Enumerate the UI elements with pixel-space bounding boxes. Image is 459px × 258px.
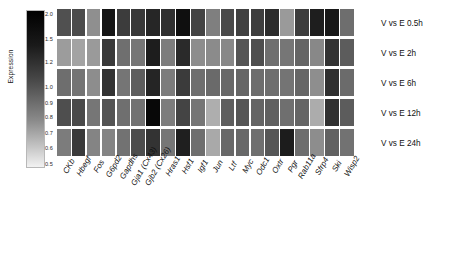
heatmap-cell[interactable] (340, 129, 354, 156)
heatmap-cell[interactable] (57, 129, 71, 156)
heatmap-cell[interactable] (161, 39, 175, 66)
heatmap-cell[interactable] (295, 129, 309, 156)
heatmap-cell[interactable] (251, 69, 265, 96)
heatmap-cell[interactable] (310, 99, 324, 126)
heatmap-cell[interactable] (72, 129, 86, 156)
heatmap-cell[interactable] (265, 69, 279, 96)
colorbar-title: Expression (7, 37, 14, 97)
colorbar-tick: 0.5 (45, 161, 53, 167)
heatmap-cell[interactable] (176, 129, 190, 156)
heatmap-cell[interactable] (221, 129, 235, 156)
heatmap-cell[interactable] (325, 129, 339, 156)
heatmap-cell[interactable] (87, 39, 101, 66)
heatmap-cell[interactable] (87, 69, 101, 96)
heatmap-cell[interactable] (57, 9, 71, 36)
heatmap-cell[interactable] (146, 99, 160, 126)
heatmap-cell[interactable] (131, 69, 145, 96)
heatmap-cell[interactable] (221, 99, 235, 126)
heatmap-cell[interactable] (265, 9, 279, 36)
heatmap-cell[interactable] (251, 39, 265, 66)
heatmap-cell[interactable] (206, 69, 220, 96)
heatmap-cell[interactable] (102, 69, 116, 96)
heatmap-cell[interactable] (131, 39, 145, 66)
heatmap-cell[interactable] (295, 9, 309, 36)
heatmap-cell[interactable] (131, 9, 145, 36)
heatmap-cell[interactable] (191, 39, 205, 66)
heatmap-cell[interactable] (310, 129, 324, 156)
heatmap-cell[interactable] (295, 39, 309, 66)
heatmap-cell[interactable] (146, 39, 160, 66)
heatmap-cell[interactable] (340, 69, 354, 96)
heatmap-cell[interactable] (87, 9, 101, 36)
heatmap-cell[interactable] (102, 99, 116, 126)
heatmap-cell[interactable] (206, 9, 220, 36)
heatmap-cell[interactable] (102, 9, 116, 36)
heatmap-cell[interactable] (265, 39, 279, 66)
heatmap-cell[interactable] (236, 129, 250, 156)
heatmap-cell[interactable] (295, 69, 309, 96)
heatmap-cell[interactable] (310, 69, 324, 96)
heatmap-cell[interactable] (117, 129, 131, 156)
heatmap-cell[interactable] (310, 9, 324, 36)
heatmap-cell[interactable] (146, 9, 160, 36)
heatmap-cell[interactable] (57, 69, 71, 96)
heatmap-cell[interactable] (340, 39, 354, 66)
heatmap-cell[interactable] (176, 99, 190, 126)
heatmap-cell[interactable] (236, 69, 250, 96)
heatmap-cell[interactable] (57, 99, 71, 126)
heatmap-cell[interactable] (161, 99, 175, 126)
heatmap-cell[interactable] (236, 9, 250, 36)
heatmap-cell[interactable] (221, 69, 235, 96)
heatmap-cell[interactable] (206, 39, 220, 66)
heatmap-cell[interactable] (117, 39, 131, 66)
heatmap-cell[interactable] (161, 9, 175, 36)
heatmap-cell[interactable] (280, 129, 294, 156)
heatmap-cell[interactable] (295, 99, 309, 126)
heatmap-cell[interactable] (280, 99, 294, 126)
heatmap-cell[interactable] (221, 39, 235, 66)
heatmap-cell[interactable] (176, 39, 190, 66)
heatmap-cell[interactable] (117, 9, 131, 36)
heatmap-cell[interactable] (117, 69, 131, 96)
heatmap-cell[interactable] (72, 99, 86, 126)
heatmap-cell[interactable] (325, 9, 339, 36)
heatmap-cell[interactable] (206, 99, 220, 126)
heatmap-cell[interactable] (57, 39, 71, 66)
heatmap-cell[interactable] (236, 99, 250, 126)
column-label-slot: Jun (206, 162, 222, 258)
heatmap-cell[interactable] (87, 99, 101, 126)
heatmap-cell[interactable] (280, 9, 294, 36)
heatmap-cell[interactable] (176, 9, 190, 36)
heatmap-cell[interactable] (340, 99, 354, 126)
heatmap-cell[interactable] (325, 69, 339, 96)
heatmap-cell[interactable] (251, 129, 265, 156)
heatmap-cell[interactable] (325, 39, 339, 66)
heatmap-cell[interactable] (265, 99, 279, 126)
heatmap-cell[interactable] (310, 39, 324, 66)
heatmap-cell[interactable] (340, 9, 354, 36)
heatmap-cell[interactable] (265, 129, 279, 156)
heatmap-cell[interactable] (191, 129, 205, 156)
heatmap-cell[interactable] (87, 129, 101, 156)
heatmap-cell[interactable] (251, 99, 265, 126)
heatmap-cell[interactable] (221, 9, 235, 36)
heatmap-cell[interactable] (191, 9, 205, 36)
heatmap-cell[interactable] (251, 9, 265, 36)
heatmap-cell[interactable] (102, 39, 116, 66)
heatmap-cell[interactable] (146, 69, 160, 96)
heatmap-cell[interactable] (191, 99, 205, 126)
heatmap-cell[interactable] (191, 69, 205, 96)
heatmap-cell[interactable] (206, 129, 220, 156)
heatmap-cell[interactable] (280, 69, 294, 96)
heatmap-cell[interactable] (102, 129, 116, 156)
heatmap-cell[interactable] (131, 99, 145, 126)
heatmap-cell[interactable] (72, 39, 86, 66)
heatmap-cell[interactable] (280, 39, 294, 66)
heatmap-cell[interactable] (161, 69, 175, 96)
heatmap-cell[interactable] (176, 69, 190, 96)
heatmap-cell[interactable] (236, 39, 250, 66)
heatmap-cell[interactable] (117, 99, 131, 126)
heatmap-cell[interactable] (325, 99, 339, 126)
heatmap-cell[interactable] (72, 69, 86, 96)
heatmap-cell[interactable] (72, 9, 86, 36)
